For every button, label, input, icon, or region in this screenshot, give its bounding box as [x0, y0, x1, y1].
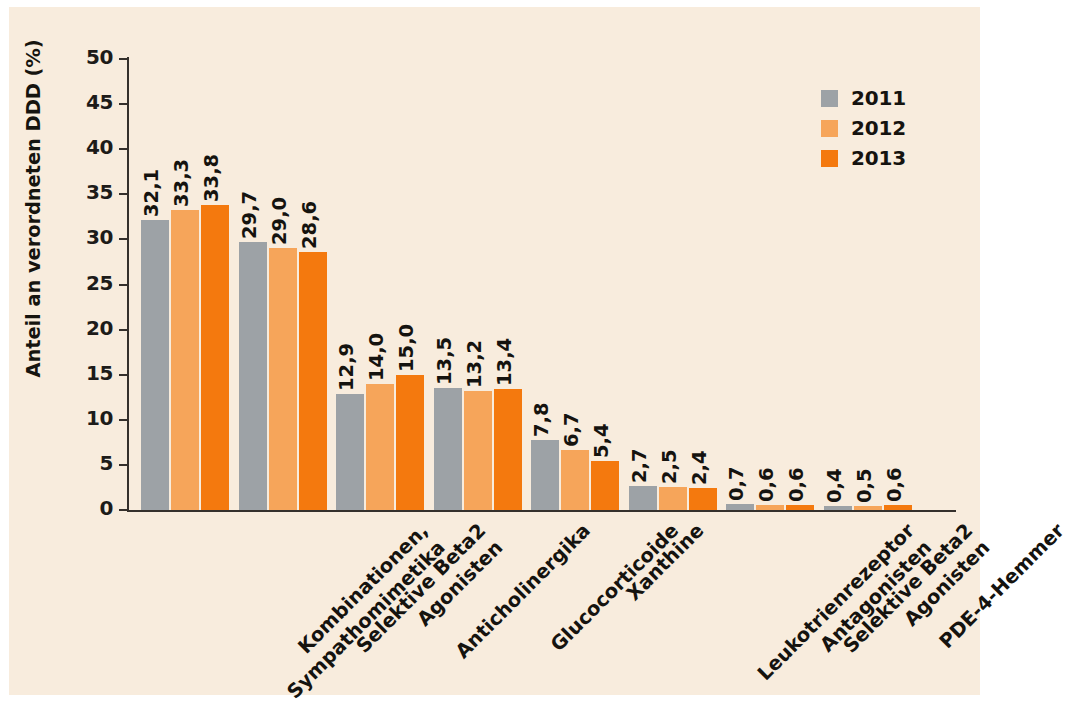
y-axis-tick [119, 238, 127, 240]
y-axis-tick-value: 10 [71, 406, 113, 430]
bar-value-label: 29,0 [269, 179, 297, 245]
bar-value-label: 0,4 [824, 437, 852, 503]
bar-value-label: 2,5 [659, 418, 687, 484]
bar-group: 0,70,60,6 [726, 59, 814, 510]
bar[interactable]: 0,6 [786, 505, 814, 510]
bar-value-label: 15,0 [396, 306, 424, 372]
bar-value-label: 0,5 [854, 437, 882, 503]
y-axis-tick-value: 45 [71, 90, 113, 114]
bar-value-label: 12,9 [336, 325, 364, 391]
y-axis-tick [119, 329, 127, 331]
bar-value-label: 7,8 [531, 371, 559, 437]
bar-value-label: 33,3 [171, 141, 199, 207]
bar[interactable]: 14,0 [366, 384, 394, 510]
legend-color-swatch [821, 90, 838, 107]
bar-value-label: 5,4 [591, 392, 619, 458]
bar[interactable]: 5,4 [591, 461, 619, 510]
bar[interactable]: 2,4 [689, 488, 717, 510]
bar[interactable]: 0,7 [726, 504, 754, 510]
bar-value-label: 29,7 [239, 173, 267, 239]
legend-item-label: 2013 [851, 146, 906, 170]
bar[interactable]: 2,5 [659, 487, 687, 510]
bar-group: 12,914,015,0 [336, 59, 424, 510]
legend-color-swatch [821, 120, 838, 137]
legend-item[interactable]: 2013 [821, 143, 906, 173]
bar-value-label: 14,0 [366, 315, 394, 381]
bar-value-label: 0,6 [786, 436, 814, 502]
y-axis-tick-label: 15 [71, 361, 113, 385]
y-axis-tick-label: 5 [71, 451, 113, 475]
legend-item[interactable]: 2012 [821, 113, 906, 143]
bar[interactable]: 13,4 [494, 389, 522, 510]
y-axis-tick-label: 35 [71, 180, 113, 204]
bar[interactable]: 33,8 [201, 205, 229, 510]
bar-group: 32,133,333,8 [141, 59, 229, 510]
bar-value-label: 13,2 [464, 322, 492, 388]
legend-item[interactable]: 2011 [821, 83, 906, 113]
y-axis-tick-value: 30 [71, 225, 113, 249]
chart-figure: Anteil an verordneten DDD (%) 0510152025… [9, 7, 980, 695]
bar[interactable]: 29,0 [269, 248, 297, 510]
bar[interactable]: 7,8 [531, 440, 559, 510]
legend-item-label: 2011 [851, 86, 906, 110]
y-axis-tick-value: 25 [71, 271, 113, 295]
bar[interactable]: 28,6 [299, 252, 327, 510]
bar[interactable]: 13,5 [434, 388, 462, 510]
y-axis-tick-label: 30 [71, 225, 113, 249]
y-axis-tick-label: 0 [71, 496, 113, 520]
bar-value-label: 28,6 [299, 183, 327, 249]
y-axis-tick [119, 419, 127, 421]
y-axis-tick-value: 20 [71, 316, 113, 340]
bar-value-label: 0,6 [884, 436, 912, 502]
bar[interactable]: 0,4 [824, 506, 852, 510]
y-axis-tick [119, 284, 127, 286]
y-axis-tick [119, 148, 127, 150]
legend-item-label: 2012 [851, 116, 906, 140]
bar-value-label: 0,7 [726, 435, 754, 501]
y-axis-tick-value: 40 [71, 135, 113, 159]
y-axis-tick-label: 50 [71, 45, 113, 69]
y-axis-tick-value: 50 [71, 45, 113, 69]
x-axis-line [127, 510, 956, 512]
bar[interactable]: 2,7 [629, 486, 657, 510]
bar[interactable]: 0,6 [884, 505, 912, 510]
chart-legend: 201120122013 [821, 83, 906, 173]
y-axis-tick [119, 58, 127, 60]
y-axis-tick [119, 193, 127, 195]
y-axis-tick-label: 40 [71, 135, 113, 159]
y-axis-tick [119, 103, 127, 105]
bar[interactable]: 13,2 [464, 391, 492, 510]
y-axis-tick [119, 509, 127, 511]
y-axis-tick-value: 0 [71, 496, 113, 520]
bar-value-label: 33,8 [201, 136, 229, 202]
bar[interactable]: 0,6 [756, 505, 784, 510]
bar-group: 7,86,75,4 [531, 59, 619, 510]
bar[interactable]: 15,0 [396, 375, 424, 510]
bar[interactable]: 12,9 [336, 394, 364, 510]
bar[interactable]: 6,7 [561, 450, 589, 510]
bar-value-label: 13,5 [434, 319, 462, 385]
y-axis-tick [119, 464, 127, 466]
bar[interactable]: 33,3 [171, 210, 199, 510]
bar[interactable]: 29,7 [239, 242, 267, 510]
bar-value-label: 6,7 [561, 381, 589, 447]
y-axis-tick [119, 374, 127, 376]
y-axis-tick-label: 20 [71, 316, 113, 340]
y-axis-tick-value: 35 [71, 180, 113, 204]
bar-value-label: 32,1 [141, 151, 169, 217]
y-axis-tick-value: 15 [71, 361, 113, 385]
bar[interactable]: 0,5 [854, 506, 882, 511]
bar-value-label: 0,6 [756, 436, 784, 502]
bar-value-label: 2,7 [629, 417, 657, 483]
y-axis-tick-label: 45 [71, 90, 113, 114]
bar-group: 29,729,028,6 [239, 59, 327, 510]
bar-group: 13,513,213,4 [434, 59, 522, 510]
y-axis-title: Anteil an verordneten DDD (%) [22, 0, 45, 469]
bar-value-label: 2,4 [689, 419, 717, 485]
y-axis-tick-label: 10 [71, 406, 113, 430]
y-axis-tick-value: 5 [71, 451, 113, 475]
bar[interactable]: 32,1 [141, 220, 169, 510]
y-axis-tick-label: 25 [71, 271, 113, 295]
bar-value-label: 13,4 [494, 320, 522, 386]
legend-color-swatch [821, 150, 838, 167]
